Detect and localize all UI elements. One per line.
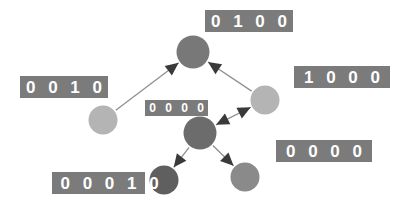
bit-string-label: 0 0 0 0 1 0 xyxy=(52,172,145,194)
bit-string-label: 1 0 0 0 0 0 xyxy=(276,140,372,162)
bit-string-label: 0 0 0 1 0 0 xyxy=(20,76,108,98)
arrowhead xyxy=(208,62,222,74)
arrowhead xyxy=(165,63,179,76)
graph-edge xyxy=(174,147,189,167)
graph-node-000001[interactable] xyxy=(184,117,217,150)
bit-string-label: 0 0 1 0 0 0 xyxy=(205,10,293,32)
arrowhead xyxy=(174,153,187,167)
graph-node-010000[interactable] xyxy=(251,86,280,115)
bit-string-label: 0 1 0 0 0 0 xyxy=(294,66,390,88)
diagram-canvas: 0 0 1 0 0 00 0 0 1 0 00 1 0 0 0 00 0 0 0… xyxy=(0,0,402,206)
graph-edge xyxy=(213,146,234,166)
graph-node-100000[interactable] xyxy=(231,163,260,192)
graph-node-001000[interactable] xyxy=(177,36,210,69)
bit-string-label: 0 0 0 0 0 1 xyxy=(145,100,208,116)
graph-node-000100[interactable] xyxy=(89,106,118,135)
graph-edge xyxy=(208,62,252,91)
